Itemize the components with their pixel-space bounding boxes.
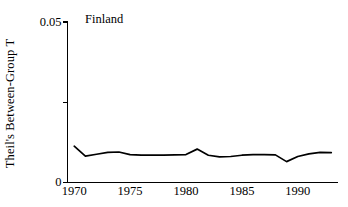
y-tick-label-top: 0.05 xyxy=(20,16,62,29)
plot-title: Finland xyxy=(85,13,123,26)
data-series-line xyxy=(74,146,331,161)
x-tick-label-1975: 1975 xyxy=(107,185,153,198)
axis-lines xyxy=(67,22,338,183)
x-tick-label-1990: 1990 xyxy=(275,185,321,198)
y-axis-label: Theil's Between-Group T xyxy=(0,0,20,207)
chart-figure: Theil's Between-Group T 0.05 0 Finland 1… xyxy=(0,0,348,207)
x-tick-label-1980: 1980 xyxy=(163,185,209,198)
x-tick-label-1970: 1970 xyxy=(51,185,97,198)
x-tick-label-1985: 1985 xyxy=(219,185,265,198)
